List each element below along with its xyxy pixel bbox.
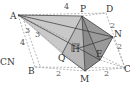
label-M: M bbox=[80, 74, 89, 84]
geometry-diagram: A P D N C E M B Q H 4 4 3 3 2 2 2 2 CN bbox=[0, 0, 130, 90]
measure-AD: 4 bbox=[64, 2, 69, 11]
label-P: P bbox=[80, 4, 86, 14]
measure-BM: 2 bbox=[56, 69, 61, 78]
measure-AB: 4 bbox=[20, 38, 25, 47]
label-E: E bbox=[96, 49, 103, 59]
measure-3b: 3 bbox=[35, 30, 40, 39]
label-D: D bbox=[106, 4, 113, 14]
label-B: B bbox=[28, 66, 35, 76]
measure-3a: 3 bbox=[25, 26, 30, 35]
label-N: N bbox=[114, 29, 122, 39]
measure-DN: 2 bbox=[110, 21, 115, 30]
measure-MC: 2 bbox=[104, 69, 109, 78]
label-C: C bbox=[124, 64, 130, 74]
label-Q: Q bbox=[58, 53, 65, 63]
shaded-faces bbox=[18, 15, 113, 71]
label-A: A bbox=[9, 11, 17, 21]
cut-text: CN bbox=[0, 57, 15, 67]
label-H: H bbox=[72, 44, 80, 54]
measure-NC: 2 bbox=[117, 42, 122, 51]
